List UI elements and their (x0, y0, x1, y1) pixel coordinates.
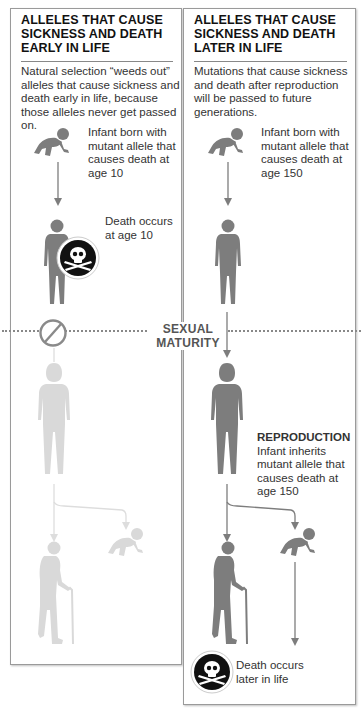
infant-crawling-icon (276, 528, 320, 560)
infant-caption-early: Infant born with mutant allele that caus… (88, 126, 180, 180)
reproduction-heading: REPRODUCTION (257, 431, 350, 443)
adult-woman-faded-icon (34, 362, 74, 480)
infant-faded-icon (104, 528, 148, 560)
arrow-down-icon (291, 562, 299, 646)
elderly-man-cane-faded-icon (30, 540, 82, 650)
skull-crossbones-icon (190, 650, 234, 694)
title-line: SICKNESS AND DEATH (21, 27, 163, 41)
death-caption-late: Death occurs later in life (236, 659, 316, 686)
death-caption-early: Death occurs at age 10 (105, 215, 175, 242)
sexual-maturity-line-right (228, 330, 361, 332)
arrow-down-icon (223, 312, 231, 358)
skull-crossbones-icon (56, 236, 100, 280)
panel-description-early: Natural selection “weeds out” alleles th… (21, 65, 181, 133)
panel-title-early: ALLELES THAT CAUSE SICKNESS AND DEATH EA… (21, 13, 163, 55)
sexual-maturity-label: SEXUAL MATURITY (148, 322, 228, 350)
sexual-maturity-line-left (2, 330, 150, 332)
arrow-down-icon (54, 162, 62, 206)
label-line: SEXUAL (148, 322, 228, 336)
infant-crawling-icon (204, 128, 248, 160)
infant-crawling-icon (30, 128, 74, 160)
infant-caption-late: Infant born with mutant allele that caus… (261, 126, 353, 180)
prohibited-icon (38, 318, 68, 348)
title-line: ALLELES THAT CAUSE (21, 13, 163, 27)
label-line: MATURITY (148, 336, 228, 350)
child-figure-icon (211, 218, 245, 310)
arrow-down-icon (224, 162, 232, 206)
adult-woman-icon (207, 362, 247, 480)
title-line: ALLELES THAT CAUSE (194, 13, 336, 27)
elderly-man-cane-icon (204, 540, 256, 650)
panel-description-late: Mutations that cause sickness and death … (194, 65, 354, 119)
title-line: EARLY IN LIFE (21, 41, 163, 55)
title-rule (21, 61, 173, 62)
title-line: LATER IN LIFE (194, 41, 336, 55)
title-line: SICKNESS AND DEATH (194, 27, 336, 41)
panel-title-late: ALLELES THAT CAUSE SICKNESS AND DEATH LA… (194, 13, 336, 55)
title-rule (194, 61, 347, 62)
faded-arrow-icon (52, 348, 56, 362)
